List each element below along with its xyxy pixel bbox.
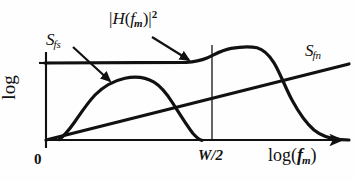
s-subscript: fn	[313, 49, 322, 61]
log-prefix: log(	[268, 145, 297, 165]
transfer-function-label: |H(fm)|2	[109, 9, 157, 29]
x-axis-label: log(fm)	[268, 146, 317, 166]
signal-spectrum-label: Sfs	[46, 31, 61, 50]
w-over-2-tick-label: W/2	[198, 148, 223, 163]
w-symbol: W	[198, 147, 211, 163]
frequency-subscript: m	[134, 17, 143, 29]
exponent-two: 2	[152, 8, 158, 20]
origin-label: 0	[34, 152, 42, 167]
noise-spectrum-label: Sfn	[305, 42, 321, 61]
transfer-function-arrow	[152, 37, 189, 60]
curve-noise-spectrum	[46, 64, 349, 140]
curve-transfer-function	[45, 47, 349, 140]
paren-close: )	[311, 145, 317, 165]
w-divisor: /2	[211, 147, 223, 163]
y-axis-label: log	[0, 75, 18, 99]
figure-container: |H(fm)|2 Sfs Sfn log 0 W/2 log(fm)	[0, 0, 356, 181]
h-symbol: H	[112, 9, 124, 28]
s-subscript: fs	[54, 38, 61, 50]
frequency-subscript: m	[302, 154, 311, 166]
